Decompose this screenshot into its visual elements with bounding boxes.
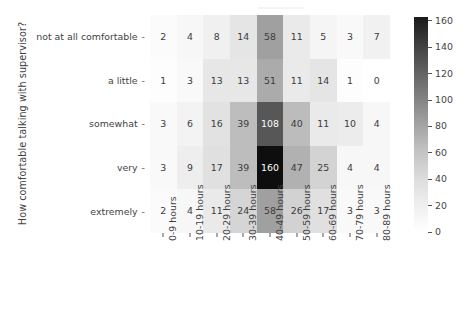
y-axis-tick-mark: - bbox=[142, 162, 145, 173]
heatmap-cell-value: 40 bbox=[291, 119, 303, 128]
heatmap-cell-value: 14 bbox=[317, 76, 329, 85]
heatmap-cell-value: 8 bbox=[214, 32, 220, 41]
heatmap-cell: 4 bbox=[177, 15, 204, 59]
heatmap-cell-value: 39 bbox=[237, 163, 249, 172]
heatmap-cell-value: 3 bbox=[347, 32, 353, 41]
heatmap-cell-value: 3 bbox=[160, 119, 166, 128]
heatmap-cell: 160 bbox=[257, 146, 284, 190]
y-axis-tick-mark: - bbox=[142, 31, 145, 42]
colorbar-tick-text: 120 bbox=[435, 68, 453, 79]
x-axis-tick-label: 40-49 hours bbox=[257, 233, 284, 323]
y-axis-tick-label: very- bbox=[0, 146, 146, 190]
colorbar-tick-mark bbox=[428, 179, 432, 180]
y-axis-tick-label: extremely- bbox=[0, 189, 146, 233]
x-axis-tick-label: 10-19 hours bbox=[177, 233, 204, 323]
heatmap-cell: 11 bbox=[283, 59, 310, 103]
heatmap-cell: 47 bbox=[283, 146, 310, 190]
heatmap-cell: 6 bbox=[177, 102, 204, 146]
x-axis-tick-label: 70-79 hours bbox=[337, 233, 364, 323]
heatmap-cell: 9 bbox=[177, 146, 204, 190]
colorbar-tick-mark bbox=[428, 126, 432, 127]
y-axis-tick-mark: - bbox=[142, 75, 145, 86]
heatmap-cell-value: 51 bbox=[264, 76, 276, 85]
heatmap-cell: 2 bbox=[150, 15, 177, 59]
x-axis-tick-mark bbox=[269, 233, 270, 237]
heatmap-cell: 5 bbox=[310, 15, 337, 59]
heatmap-cell: 4 bbox=[363, 146, 390, 190]
colorbar-tick-labels: 020406080100120140160 bbox=[428, 17, 468, 232]
heatmap-cell-value: 11 bbox=[291, 32, 303, 41]
colorbar-tick-text: 0 bbox=[435, 226, 441, 237]
heatmap-cell: 11 bbox=[283, 15, 310, 59]
heatmap-cell: 1 bbox=[337, 59, 364, 103]
heatmap-cell-value: 13 bbox=[237, 76, 249, 85]
heatmap-cell: 14 bbox=[230, 15, 257, 59]
heatmap-cell-value: 3 bbox=[160, 163, 166, 172]
x-axis-tick-mark bbox=[376, 233, 377, 237]
heatmap-cell: 3 bbox=[150, 146, 177, 190]
colorbar-tick-text: 80 bbox=[435, 120, 447, 131]
heatmap-cell-value: 11 bbox=[291, 76, 303, 85]
heatmap-figure: How comfortable talking with supervisor?… bbox=[0, 0, 468, 325]
heatmap-cell-value: 0 bbox=[374, 76, 380, 85]
heatmap-cell-value: 10 bbox=[344, 119, 356, 128]
heatmap-cell-value: 11 bbox=[317, 119, 329, 128]
heatmap-cell-value: 160 bbox=[261, 163, 279, 172]
heatmap-cell-value: 1 bbox=[347, 76, 353, 85]
x-axis-tick-label: 50-59 hours bbox=[283, 233, 310, 323]
heatmap-cell-value: 4 bbox=[347, 163, 353, 172]
heatmap-cell-value: 47 bbox=[291, 163, 303, 172]
heatmap-cell-value: 9 bbox=[187, 163, 193, 172]
heatmap-cell: 0 bbox=[363, 59, 390, 103]
y-axis-tick-label: somewhat- bbox=[0, 102, 146, 146]
heatmap-cell: 108 bbox=[257, 102, 284, 146]
x-axis-tick-label: 60-69 hours bbox=[310, 233, 337, 323]
x-axis-tick-label: 0-9 hours bbox=[150, 233, 177, 323]
colorbar-tick-mark bbox=[428, 205, 432, 206]
colorbar-gradient bbox=[414, 17, 428, 232]
heatmap-cell: 7 bbox=[363, 15, 390, 59]
colorbar-tick-mark bbox=[428, 152, 432, 153]
y-axis-tick-text: a little bbox=[108, 75, 138, 86]
heatmap-cell-value: 3 bbox=[374, 206, 380, 215]
heatmap-cell-value: 6 bbox=[187, 119, 193, 128]
colorbar-tick-mark bbox=[428, 73, 432, 74]
y-axis-tick-text: extremely bbox=[90, 206, 137, 217]
x-axis-tick-label: 20-29 hours bbox=[203, 233, 230, 323]
heatmap-cell: 3 bbox=[150, 102, 177, 146]
heatmap-cell-value: 4 bbox=[187, 32, 193, 41]
heatmap-cell: 39 bbox=[230, 146, 257, 190]
x-axis-tick-mark bbox=[243, 233, 244, 237]
heatmap-cell: 10 bbox=[337, 102, 364, 146]
x-axis-tick-label: 30-39 hours bbox=[230, 233, 257, 323]
heatmap-cell-value: 1 bbox=[160, 76, 166, 85]
y-axis-tick-text: very bbox=[117, 162, 138, 173]
heatmap-cell: 4 bbox=[363, 102, 390, 146]
heatmap-cell: 40 bbox=[283, 102, 310, 146]
x-axis-tick-label: 80-89 hours bbox=[363, 233, 390, 323]
heatmap-cell-value: 4 bbox=[187, 206, 193, 215]
heatmap-cell-value: 2 bbox=[160, 32, 166, 41]
colorbar-tick-mark bbox=[428, 232, 432, 233]
heatmap-cell: 14 bbox=[310, 59, 337, 103]
colorbar-tick-mark bbox=[428, 100, 432, 101]
heatmap-cell-value: 25 bbox=[317, 163, 329, 172]
colorbar-tick-text: 100 bbox=[435, 94, 453, 105]
heatmap-cell: 17 bbox=[203, 146, 230, 190]
x-axis-tick-mark bbox=[189, 233, 190, 237]
x-axis-tick-text: 80-89 hours bbox=[381, 184, 392, 241]
y-axis-tick-text: somewhat bbox=[89, 118, 138, 129]
heatmap-cell-value: 3 bbox=[187, 76, 193, 85]
clipped-title-artifact bbox=[258, 7, 304, 9]
heatmap-cell-value: 13 bbox=[211, 76, 223, 85]
heatmap-cell-value: 4 bbox=[374, 163, 380, 172]
x-axis-tick-mark bbox=[296, 233, 297, 237]
y-axis-tick-mark: - bbox=[142, 206, 145, 217]
colorbar-tick-text: 20 bbox=[435, 200, 447, 211]
y-axis-tick-text: not at all comfortable bbox=[36, 31, 137, 42]
colorbar-tick-text: 140 bbox=[435, 41, 453, 52]
heatmap-cell: 11 bbox=[310, 102, 337, 146]
heatmap-cell: 13 bbox=[203, 59, 230, 103]
colorbar-tick-mark bbox=[428, 47, 432, 48]
heatmap-cell-value: 3 bbox=[347, 206, 353, 215]
